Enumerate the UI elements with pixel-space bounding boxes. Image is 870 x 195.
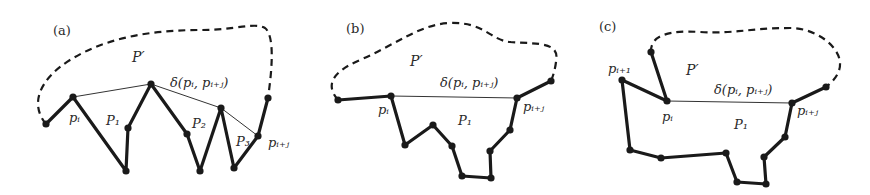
- chord-label-c: δ(pᵢ, pᵢ₊ⱼ): [714, 82, 772, 97]
- vertices-b: [334, 77, 554, 181]
- pocket-label-p1-c: P₁: [733, 117, 748, 132]
- vertex-label-pi1-c: pᵢ₊₁: [608, 61, 631, 76]
- region-label-b: P′: [409, 53, 423, 69]
- panel-c: (c) P′ δ(pᵢ, pᵢ₊ⱼ) pᵢ pᵢ₊₁ pᵢ₊ⱼ P₁: [599, 19, 840, 188]
- chord-a: [73, 84, 258, 136]
- vertex-label-pij-a: pᵢ₊ⱼ: [268, 135, 290, 150]
- panel-label-c: (c): [599, 19, 616, 34]
- panel-b: (b) P′ δ(pᵢ, pᵢ₊ⱼ) pᵢ pᵢ₊ⱼ P₁: [332, 21, 557, 182]
- polygon-chain-c: [622, 52, 826, 184]
- chord-label-a: δ(pᵢ, pᵢ₊ⱼ): [170, 75, 228, 90]
- region-label-a: P′: [131, 49, 145, 65]
- pocket-label-p2-a: P₂: [191, 116, 206, 131]
- vertices-c: [618, 48, 829, 187]
- chord-label-b: δ(pᵢ, pᵢ₊ⱼ): [440, 75, 498, 90]
- panel-label-b: (b): [346, 21, 364, 36]
- panel-a: (a) P′ δ(pᵢ, pᵢ₊ⱼ) pᵢ pᵢ₊ⱼ P₁ P₂ P₃: [38, 23, 290, 175]
- vertex-label-pi-c: pᵢ: [662, 109, 673, 124]
- vertex-label-pi-b: pᵢ: [378, 102, 389, 117]
- vertex-label-pij-b: pᵢ₊ⱼ: [523, 99, 545, 114]
- vertex-label-pi-a: pᵢ: [69, 110, 80, 125]
- figure-canvas: (a) P′ δ(pᵢ, pᵢ₊ⱼ) pᵢ pᵢ₊ⱼ P₁ P₂ P₃ (b) …: [0, 0, 870, 195]
- chord-c: [667, 101, 792, 103]
- dashed-boundary-c: [651, 28, 840, 87]
- polygon-chain-a: [46, 84, 268, 171]
- vertex-label-pij-c: pᵢ₊ⱼ: [797, 103, 819, 118]
- chord-b: [391, 96, 517, 98]
- pocket-label-p3-a: P₃: [235, 134, 250, 149]
- region-label-c: P′: [685, 62, 699, 78]
- pocket-label-p1-a: P₁: [105, 113, 120, 128]
- pocket-label-p1-b: P₁: [457, 113, 472, 128]
- panel-label-a: (a): [53, 23, 71, 38]
